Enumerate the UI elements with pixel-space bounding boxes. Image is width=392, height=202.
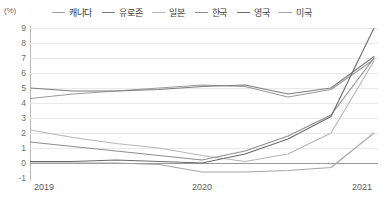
y-axis-tick-label: 0 xyxy=(21,159,26,168)
series-canvas xyxy=(30,28,378,178)
series-line xyxy=(30,28,374,163)
legend-line-icon xyxy=(152,12,165,13)
line-chart: (%) 캐나다유로존일본한국영국미국 9876543210-1 20192020… xyxy=(0,0,392,202)
legend-item[interactable]: 미국 xyxy=(279,6,311,19)
legend-label: 미국 xyxy=(296,6,311,19)
plot-area xyxy=(30,28,378,178)
legend-item[interactable]: 한국 xyxy=(195,6,227,19)
legend-item[interactable]: 캐나다 xyxy=(52,6,92,19)
legend-line-icon xyxy=(279,12,292,13)
y-axis-tick-label: 1 xyxy=(21,144,26,153)
legend-label: 일본 xyxy=(169,6,184,19)
legend-line-icon xyxy=(237,12,250,13)
legend-item[interactable]: 영국 xyxy=(237,6,269,19)
y-axis-tick-label: 7 xyxy=(21,54,26,63)
x-axis-tick-label: 2020 xyxy=(192,182,212,192)
y-axis-tick-label: 8 xyxy=(21,39,26,48)
x-axis-tick-label: 2019 xyxy=(34,182,54,192)
legend-line-icon xyxy=(102,12,115,13)
series-line xyxy=(30,60,374,99)
legend-line-icon xyxy=(195,12,208,13)
y-axis-tick-label: -1 xyxy=(18,174,26,183)
y-axis-tick-label: 2 xyxy=(21,129,26,138)
legend-label: 영국 xyxy=(254,6,269,19)
x-axis-labels: 201920202021 xyxy=(0,182,392,198)
x-axis-tick-label: 2021 xyxy=(352,182,372,192)
legend-label: 유로존 xyxy=(119,6,142,19)
legend-item[interactable]: 일본 xyxy=(152,6,184,19)
chart-legend: 캐나다유로존일본한국영국미국 xyxy=(52,6,312,19)
legend-label: 한국 xyxy=(212,6,227,19)
legend-label: 캐나다 xyxy=(69,6,92,19)
y-axis-tick-label: 9 xyxy=(21,24,26,33)
legend-item[interactable]: 유로존 xyxy=(102,6,142,19)
y-axis-labels: 9876543210-1 xyxy=(0,0,30,202)
legend-line-icon xyxy=(52,12,65,13)
y-axis-tick-label: 3 xyxy=(21,114,26,123)
y-axis-tick-label: 5 xyxy=(21,84,26,93)
y-axis-tick-label: 6 xyxy=(21,69,26,78)
series-line xyxy=(30,61,374,162)
y-axis-tick-label: 4 xyxy=(21,99,26,108)
